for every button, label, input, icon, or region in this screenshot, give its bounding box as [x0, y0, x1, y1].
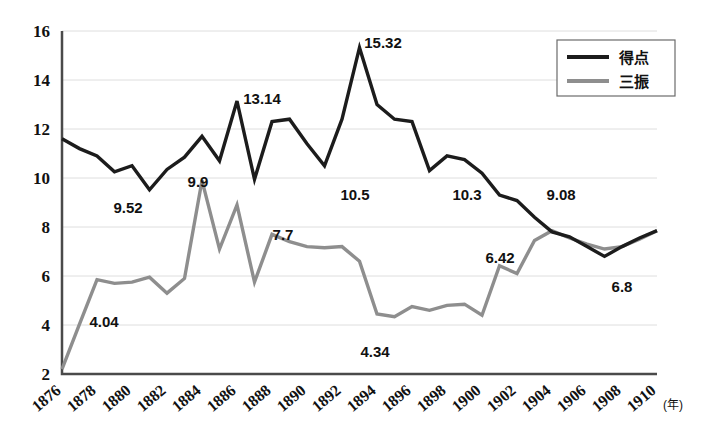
y-tick-label-14: 14 [33, 71, 51, 90]
legend: 得点三振 [557, 40, 675, 96]
data-label-9.52: 9.52 [113, 199, 142, 216]
x-tick-label-1902: 1902 [483, 381, 518, 415]
data-label-9.9: 9.9 [188, 173, 209, 190]
line-chart: 246810121416 187618781880188218841886188… [0, 0, 720, 446]
y-tick-label-4: 4 [42, 316, 51, 335]
x-tick-label-1890: 1890 [273, 381, 308, 415]
x-tick-label-1900: 1900 [448, 381, 483, 415]
data-label-13.14: 13.14 [243, 90, 281, 107]
y-tick-label-16: 16 [33, 22, 50, 41]
data-point-labels: 9.5213.1410.515.3210.39.086.84.049.97.74… [89, 34, 632, 360]
y-tick-label-6: 6 [42, 267, 51, 286]
legend-label-1: 三振 [619, 73, 649, 90]
x-tick-label-1910: 1910 [623, 381, 658, 415]
data-label-15.32: 15.32 [364, 34, 402, 51]
x-tick-label-1882: 1882 [133, 381, 168, 415]
x-tick-label-1904: 1904 [518, 381, 553, 415]
y-tick-label-10: 10 [33, 169, 50, 188]
y-tick-label-2: 2 [42, 365, 51, 384]
x-axis-unit-label: (年) [663, 398, 683, 412]
x-tick-label-1888: 1888 [238, 381, 273, 415]
chart-container: 246810121416 187618781880188218841886188… [0, 0, 720, 446]
series-line-strikeouts [62, 180, 657, 369]
x-tick-label-1880: 1880 [98, 381, 133, 415]
legend-box [557, 40, 675, 96]
x-tick-label-1906: 1906 [553, 381, 588, 415]
x-tick-label-1898: 1898 [413, 381, 448, 415]
x-axis-tick-labels: 1876187818801882188418861888189018921894… [28, 381, 658, 415]
data-label-7.7: 7.7 [273, 226, 294, 243]
data-label-4.34: 4.34 [360, 343, 390, 360]
data-label-10.5: 10.5 [340, 186, 369, 203]
data-label-6.8: 6.8 [612, 278, 633, 295]
x-tick-label-1886: 1886 [203, 381, 238, 415]
y-tick-label-8: 8 [42, 218, 51, 237]
x-tick-label-1876: 1876 [28, 381, 63, 415]
x-tick-label-1878: 1878 [63, 381, 98, 415]
data-label-6.42: 6.42 [485, 249, 514, 266]
x-tick-label-1908: 1908 [588, 381, 623, 415]
data-label-9.08: 9.08 [546, 186, 575, 203]
x-tick-label-1884: 1884 [168, 381, 203, 415]
x-tick-label-1896: 1896 [378, 381, 413, 415]
legend-label-0: 得点 [618, 49, 649, 66]
data-label-10.3: 10.3 [452, 186, 481, 203]
y-tick-label-12: 12 [33, 120, 50, 139]
y-axis-tick-labels: 246810121416 [33, 22, 51, 384]
x-tick-label-1892: 1892 [308, 381, 343, 415]
data-label-4.04: 4.04 [89, 313, 119, 330]
x-tick-label-1894: 1894 [343, 381, 378, 415]
